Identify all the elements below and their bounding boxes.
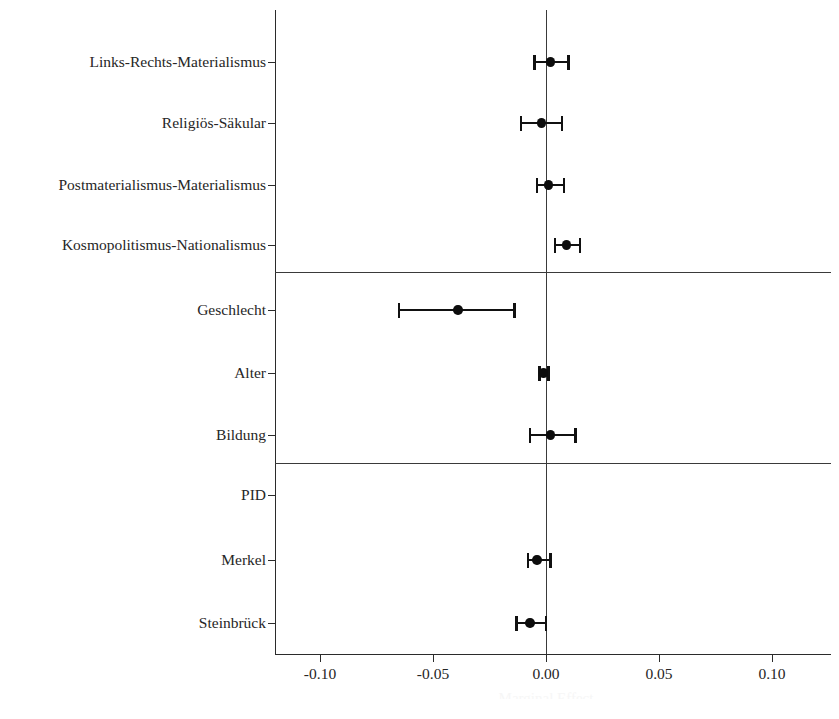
ci-cap-upper — [574, 428, 577, 443]
estimate-row — [0, 62, 839, 63]
x-axis-tick — [320, 654, 321, 662]
ci-cap-upper — [513, 303, 516, 318]
x-axis-tick — [546, 654, 547, 662]
ci-cap-upper — [561, 116, 564, 131]
y-axis-line — [275, 10, 276, 655]
ci-cap-lower — [529, 428, 532, 443]
estimate-row — [0, 560, 839, 561]
estimate-row — [0, 435, 839, 436]
estimate-row — [0, 185, 839, 186]
x-axis-line — [275, 654, 831, 655]
x-axis-tick — [772, 654, 773, 662]
point-estimate-marker — [546, 430, 556, 440]
ci-cap-lower — [520, 116, 523, 131]
estimate-row — [0, 495, 839, 496]
ci-cap-lower — [398, 303, 401, 318]
ci-cap-upper — [545, 616, 548, 631]
group-separator-1 — [275, 272, 831, 273]
ci-cap-upper — [567, 55, 570, 70]
ci-cap-lower — [533, 55, 536, 70]
estimate-row — [0, 623, 839, 624]
coefficient-plot: Links-Rechts-MaterialismusReligiös-Säkul… — [0, 0, 839, 719]
point-estimate-marker — [546, 57, 556, 67]
point-estimate-marker — [544, 180, 554, 190]
point-estimate-marker — [532, 555, 542, 565]
point-estimate-marker — [562, 240, 572, 250]
point-estimate-marker — [525, 618, 535, 628]
estimate-row — [0, 123, 839, 124]
x-axis-tick-label: -0.05 — [417, 665, 449, 683]
estimate-row — [0, 310, 839, 311]
x-axis-title: Marginal Effect — [499, 690, 594, 699]
x-axis-tick — [659, 654, 660, 662]
estimate-row — [0, 245, 839, 246]
x-axis-tick — [433, 654, 434, 662]
point-estimate-marker — [453, 305, 463, 315]
x-axis-tick-label: 0.05 — [645, 665, 672, 683]
ci-cap-lower — [515, 616, 518, 631]
ci-cap-lower — [536, 178, 539, 193]
ci-cap-upper — [579, 238, 582, 253]
point-estimate-marker — [537, 118, 547, 128]
ci-cap-lower — [527, 553, 530, 568]
ci-cap-upper — [549, 553, 552, 568]
x-axis-tick-label: 0.10 — [758, 665, 785, 683]
ci-cap-lower — [554, 238, 557, 253]
estimate-row — [0, 373, 839, 374]
x-axis-tick-label: -0.10 — [304, 665, 336, 683]
group-separator-2 — [275, 463, 831, 464]
x-axis-tick-label: 0.00 — [532, 665, 559, 683]
ci-cap-upper — [563, 178, 566, 193]
